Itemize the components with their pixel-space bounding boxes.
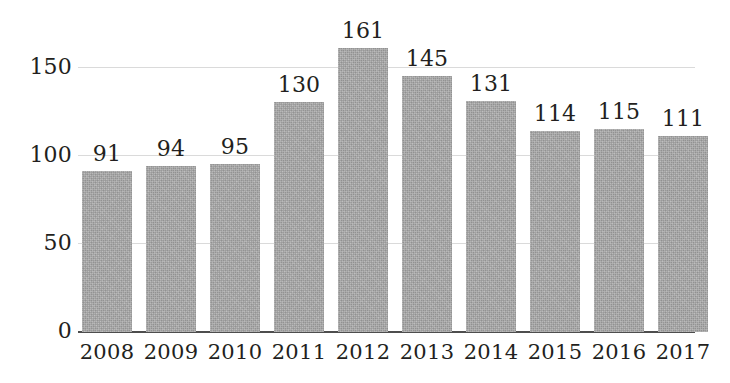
bar-value-label: 145 bbox=[393, 48, 461, 70]
x-axis-tick-label: 2013 bbox=[393, 340, 461, 364]
x-axis-tick-label: 2012 bbox=[329, 340, 397, 364]
x-axis-tick-2010: 2010 bbox=[210, 0, 260, 24]
bar[interactable] bbox=[594, 129, 644, 332]
bar[interactable] bbox=[466, 101, 516, 332]
bar-value-label: 94 bbox=[137, 138, 205, 160]
x-axis-tick-2013: 2013 bbox=[402, 0, 452, 24]
x-axis-tick-2012: 2012 bbox=[338, 0, 388, 24]
bar-group[interactable]: 115 bbox=[594, 129, 644, 332]
y-axis-tick-150: 150 bbox=[8, 56, 72, 78]
x-axis-tick-label: 2011 bbox=[265, 340, 333, 364]
bar[interactable] bbox=[274, 102, 324, 332]
bar[interactable] bbox=[146, 166, 196, 332]
y-axis-tick-label: 50 bbox=[16, 232, 72, 254]
bar[interactable] bbox=[530, 131, 580, 332]
y-axis-tick-label: 100 bbox=[16, 144, 72, 166]
x-axis-tick-label: 2016 bbox=[585, 340, 653, 364]
bar[interactable] bbox=[402, 76, 452, 332]
x-axis-tick-label: 2014 bbox=[457, 340, 525, 364]
x-axis-tick-label: 2015 bbox=[521, 340, 589, 364]
x-axis-tick-2009: 2009 bbox=[146, 0, 196, 24]
x-axis-tick-2008: 2008 bbox=[82, 0, 132, 24]
x-axis-tick-2014: 2014 bbox=[466, 0, 516, 24]
x-axis-tick-2017: 2017 bbox=[658, 0, 708, 24]
y-axis-tick-50: 50 bbox=[8, 232, 72, 254]
bar-value-label: 115 bbox=[585, 101, 653, 123]
bar-group[interactable]: 114 bbox=[530, 131, 580, 332]
y-axis-tick-label: 0 bbox=[16, 320, 72, 342]
bar-group[interactable]: 131 bbox=[466, 101, 516, 332]
bar-chart: 150 100 50 0 919495130161145131114115111… bbox=[0, 0, 730, 383]
x-axis-tick-label: 2009 bbox=[137, 340, 205, 364]
bar-group[interactable]: 91 bbox=[82, 171, 132, 332]
x-axis-tick-label: 2017 bbox=[649, 340, 717, 364]
bar-group[interactable]: 95 bbox=[210, 164, 260, 332]
bar-group[interactable]: 94 bbox=[146, 166, 196, 332]
x-axis-tick-2011: 2011 bbox=[274, 0, 324, 24]
x-axis-tick-2016: 2016 bbox=[594, 0, 644, 24]
bar[interactable] bbox=[210, 164, 260, 332]
bar[interactable] bbox=[658, 136, 708, 332]
y-axis-tick-label: 150 bbox=[16, 56, 72, 78]
bar-group[interactable]: 130 bbox=[274, 102, 324, 332]
bar-group[interactable]: 161 bbox=[338, 48, 388, 332]
bar-group[interactable]: 145 bbox=[402, 76, 452, 332]
bar[interactable] bbox=[82, 171, 132, 332]
bar-value-label: 131 bbox=[457, 73, 525, 95]
x-axis-tick-label: 2008 bbox=[73, 340, 141, 364]
bar-value-label: 114 bbox=[521, 103, 589, 125]
bar-group[interactable]: 111 bbox=[658, 136, 708, 332]
x-axis-tick-label: 2010 bbox=[201, 340, 269, 364]
y-axis-tick-0: 0 bbox=[8, 320, 72, 342]
bar[interactable] bbox=[338, 48, 388, 332]
y-axis-tick-100: 100 bbox=[8, 144, 72, 166]
bar-value-label: 111 bbox=[649, 108, 717, 130]
bar-value-label: 91 bbox=[73, 143, 141, 165]
bar-value-label: 130 bbox=[265, 74, 333, 96]
x-axis-tick-2015: 2015 bbox=[530, 0, 580, 24]
bar-value-label: 95 bbox=[201, 136, 269, 158]
